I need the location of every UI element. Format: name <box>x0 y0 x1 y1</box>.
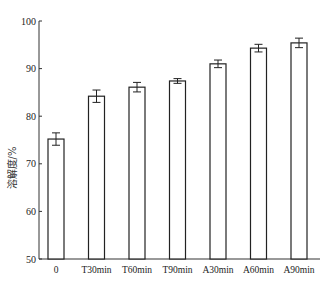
x-tick-label: A30min <box>202 265 233 275</box>
x-tick-label: 0 <box>54 265 59 275</box>
y-tick-label: 100 <box>21 16 36 27</box>
x-tick-label: T90min <box>162 265 192 275</box>
y-tick-label: 80 <box>26 111 36 122</box>
x-tick-label: A90min <box>283 265 314 275</box>
x-axis: 0T30minT60minT90minA30minA60minA90min <box>39 259 320 275</box>
bar-A60min <box>251 44 267 259</box>
bar-chart: 5060708090100 0T30minT60minT90minA30minA… <box>0 0 334 289</box>
x-tick-label: T30min <box>81 265 111 275</box>
bar-T60min <box>129 82 145 259</box>
bar-A90min <box>291 38 307 259</box>
bar-T30min <box>89 90 105 259</box>
x-tick-label: T60min <box>122 265 152 275</box>
y-tick-label: 50 <box>26 254 36 265</box>
y-tick-label: 90 <box>26 63 36 74</box>
y-axis-label: 溶解度/% <box>6 147 18 190</box>
y-tick-label: 60 <box>26 206 36 217</box>
bars <box>48 38 307 259</box>
y-tick-label: 70 <box>26 158 36 169</box>
bar-A30min <box>210 60 226 259</box>
x-tick-label: A60min <box>243 265 274 275</box>
y-axis: 5060708090100 <box>21 16 42 265</box>
bar-0 <box>48 133 64 259</box>
bar-T90min <box>170 79 186 259</box>
